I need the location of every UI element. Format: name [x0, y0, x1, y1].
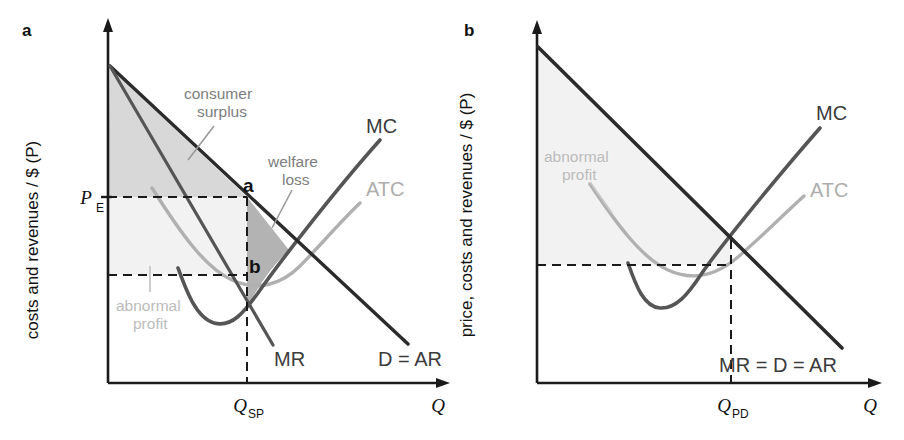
x-axis-var-a: Q: [431, 395, 445, 416]
leader-welfare-loss: [272, 190, 292, 228]
annot-abnormal-profit-line1: abnormal: [116, 297, 181, 314]
annot-welfare-loss-line1: welfare: [267, 153, 318, 170]
y-axis-title-b: price, costs and revenues / $ (P): [457, 93, 476, 338]
annot-consumer-surplus-line2: surplus: [197, 103, 247, 120]
annot-abnormal-profit-b-line2: profit: [562, 166, 597, 183]
annot-welfare-loss-line2: loss: [282, 171, 310, 188]
label-atc-b: ATC: [810, 179, 849, 201]
x-axis-arrowhead-b: [868, 378, 882, 388]
figure-canvas: a costs and revenues / $ (P) MC ATC MR D…: [0, 0, 904, 440]
axis-marker-qpd-var: Q: [717, 395, 731, 416]
annot-consumer-surplus-line1: consumer: [184, 85, 252, 102]
panel-b: b price, costs and revenues / $ (P) MC A…: [452, 0, 904, 440]
label-mc-b: MC: [816, 102, 847, 124]
label-demand-a: D = AR: [378, 348, 442, 370]
panel-letter-b: b: [464, 21, 474, 40]
axis-marker-qpd-sub: PD: [732, 407, 749, 421]
y-axis-arrowhead-b: [532, 20, 542, 34]
label-mc-a: MC: [366, 115, 397, 137]
point-label-a: a: [243, 175, 254, 196]
panel-letter-a: a: [22, 21, 32, 40]
panel-a: a costs and revenues / $ (P) MC ATC MR D…: [0, 0, 452, 440]
axis-marker-qsp-sub: SP: [248, 407, 264, 421]
point-label-b: b: [249, 256, 261, 277]
label-demand-b: MR = D = AR: [719, 354, 837, 376]
annot-abnormal-profit-b-line1: abnormal: [544, 148, 609, 165]
axis-marker-pe-sub: E: [96, 201, 104, 215]
y-axis-title-a: costs and revenues / $ (P): [23, 141, 42, 339]
label-atc-a: ATC: [366, 178, 405, 200]
y-axis-arrowhead: [103, 18, 113, 32]
axis-marker-pe-var: P: [79, 187, 92, 208]
label-mr-a: MR: [274, 348, 305, 370]
x-axis-var-b: Q: [863, 395, 877, 416]
annot-abnormal-profit-line2: profit: [133, 315, 168, 332]
axis-marker-qsp-var: Q: [233, 395, 247, 416]
x-axis-arrowhead: [436, 378, 450, 388]
